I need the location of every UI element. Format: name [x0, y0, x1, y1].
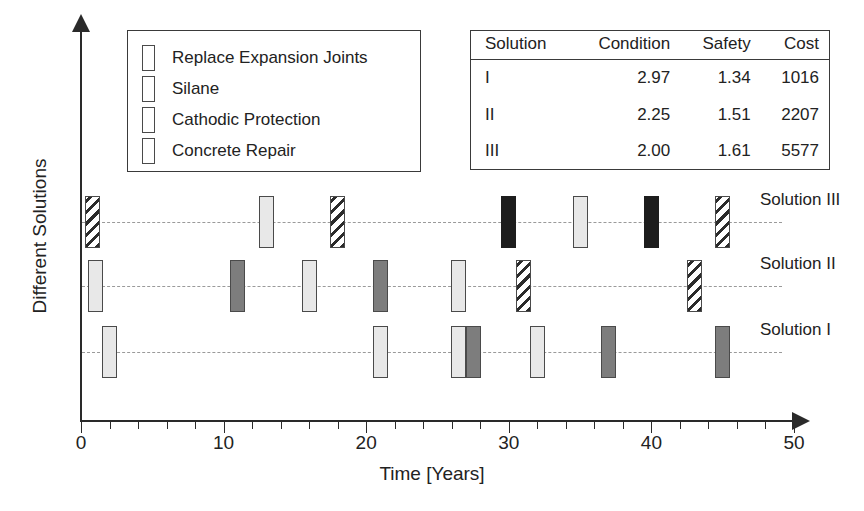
- x-axis-minor-tick: [737, 420, 738, 429]
- legend-item-label: Replace Expansion Joints: [172, 48, 368, 68]
- x-axis-line: [81, 420, 794, 422]
- x-axis-minor-tick: [395, 420, 396, 429]
- timeline-event-bar[interactable]: [644, 196, 659, 248]
- x-axis-tick-label: 30: [498, 432, 519, 454]
- x-axis-minor-tick: [680, 420, 681, 429]
- table-row: I2.971.341016: [471, 60, 829, 97]
- x-axis-minor-tick: [110, 420, 111, 429]
- timeline-event-bar[interactable]: [715, 326, 730, 378]
- legend-item-silane[interactable]: Silane: [142, 74, 219, 104]
- y-axis-line: [80, 30, 82, 422]
- x-axis-tick-label: 0: [76, 432, 87, 454]
- x-axis-tick-label: 10: [213, 432, 234, 454]
- timeline-event-bar[interactable]: [302, 260, 317, 312]
- x-axis-minor-tick: [138, 420, 139, 429]
- x-axis-tick-label: 40: [641, 432, 662, 454]
- timeline-event-bar[interactable]: [601, 326, 616, 378]
- timeline-event-bar[interactable]: [687, 260, 702, 312]
- legend-item-cathodic[interactable]: Cathodic Protection: [142, 105, 320, 135]
- table-cell: III: [471, 133, 572, 169]
- table-cell: 1.61: [680, 133, 761, 169]
- legend-swatch-icon: [142, 138, 155, 164]
- timeline-event-bar[interactable]: [259, 196, 274, 248]
- table-cell: 1.51: [680, 97, 761, 133]
- table-header-row: SolutionConditionSafetyCost: [471, 31, 829, 60]
- chart-legend: Replace Expansion JointsSilaneCathodic P…: [127, 30, 421, 172]
- x-axis-tick-label: 20: [356, 432, 377, 454]
- row-baseline: [82, 352, 782, 353]
- x-axis-minor-tick: [765, 420, 766, 429]
- x-axis-minor-tick: [623, 420, 624, 429]
- legend-item-replace[interactable]: Replace Expansion Joints: [142, 43, 368, 73]
- row-label: Solution III: [760, 190, 840, 210]
- x-axis-minor-tick: [537, 420, 538, 429]
- x-axis-minor-tick: [480, 420, 481, 429]
- legend-item-label: Concrete Repair: [172, 141, 296, 161]
- summary-data-table: SolutionConditionSafetyCost I2.971.34101…: [470, 30, 830, 170]
- timeline-chart-figure: 01020304050 Solution IIISolution IISolut…: [0, 0, 864, 511]
- row-baseline: [82, 222, 782, 223]
- row-baseline: [82, 286, 782, 287]
- x-axis-minor-tick: [195, 420, 196, 429]
- table-column-header: Safety: [680, 31, 761, 60]
- x-axis-minor-tick: [338, 420, 339, 429]
- legend-item-label: Cathodic Protection: [172, 110, 320, 130]
- table-cell: II: [471, 97, 572, 133]
- timeline-event-bar[interactable]: [88, 260, 103, 312]
- legend-item-concrete[interactable]: Concrete Repair: [142, 136, 296, 166]
- timeline-event-bar[interactable]: [230, 260, 245, 312]
- timeline-event-bar[interactable]: [102, 326, 117, 378]
- table-cell: 2.97: [572, 60, 680, 97]
- timeline-event-bar[interactable]: [373, 326, 388, 378]
- row-label: Solution II: [760, 254, 836, 274]
- timeline-event-bar[interactable]: [451, 326, 466, 378]
- timeline-event-bar[interactable]: [373, 260, 388, 312]
- legend-swatch-icon: [142, 107, 155, 133]
- timeline-event-bar[interactable]: [573, 196, 588, 248]
- x-axis-minor-tick: [452, 420, 453, 429]
- table-row: III2.001.615577: [471, 133, 829, 169]
- table-row: II2.251.512207: [471, 97, 829, 133]
- x-axis-minor-tick: [252, 420, 253, 429]
- y-axis-title: Different Solutions: [29, 116, 51, 356]
- legend-swatch-icon: [142, 45, 155, 71]
- table-cell: 2.25: [572, 97, 680, 133]
- legend-swatch-icon: [142, 76, 155, 102]
- table-column-header: Solution: [471, 31, 572, 60]
- timeline-event-bar[interactable]: [451, 260, 466, 312]
- row-label: Solution I: [760, 320, 831, 340]
- timeline-event-bar[interactable]: [516, 260, 531, 312]
- x-axis-minor-tick: [566, 420, 567, 429]
- x-axis-minor-tick: [167, 420, 168, 429]
- table-body: I2.971.341016II2.251.512207III2.001.6155…: [471, 60, 829, 170]
- table-cell: 5577: [761, 133, 829, 169]
- table-cell: 2207: [761, 97, 829, 133]
- timeline-event-bar[interactable]: [501, 196, 516, 248]
- table-cell: 2.00: [572, 133, 680, 169]
- y-axis-arrow: [72, 14, 90, 32]
- timeline-event-bar[interactable]: [715, 196, 730, 248]
- legend-item-label: Silane: [172, 79, 219, 99]
- x-axis-minor-tick: [708, 420, 709, 429]
- timeline-event-bar[interactable]: [530, 326, 545, 378]
- x-axis-title: Time [Years]: [0, 463, 864, 485]
- table-cell: 1016: [761, 60, 829, 97]
- table-column-header: Cost: [761, 31, 829, 60]
- x-axis-minor-tick: [281, 420, 282, 429]
- table-cell: I: [471, 60, 572, 97]
- timeline-event-bar[interactable]: [466, 326, 481, 378]
- x-axis-tick-label: 50: [783, 432, 804, 454]
- x-axis-minor-tick: [594, 420, 595, 429]
- timeline-event-bar[interactable]: [85, 196, 100, 248]
- x-axis-minor-tick: [423, 420, 424, 429]
- table-cell: 1.34: [680, 60, 761, 97]
- x-axis-minor-tick: [309, 420, 310, 429]
- table-column-header: Condition: [572, 31, 680, 60]
- timeline-event-bar[interactable]: [330, 196, 345, 248]
